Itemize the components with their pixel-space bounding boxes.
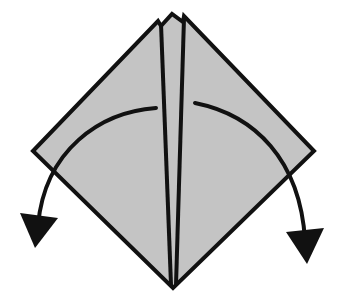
left-arrow-head-icon (20, 213, 58, 248)
origami-diagram (0, 0, 344, 295)
right-arrow-head-icon (286, 228, 324, 264)
diamond-paper (33, 14, 314, 288)
